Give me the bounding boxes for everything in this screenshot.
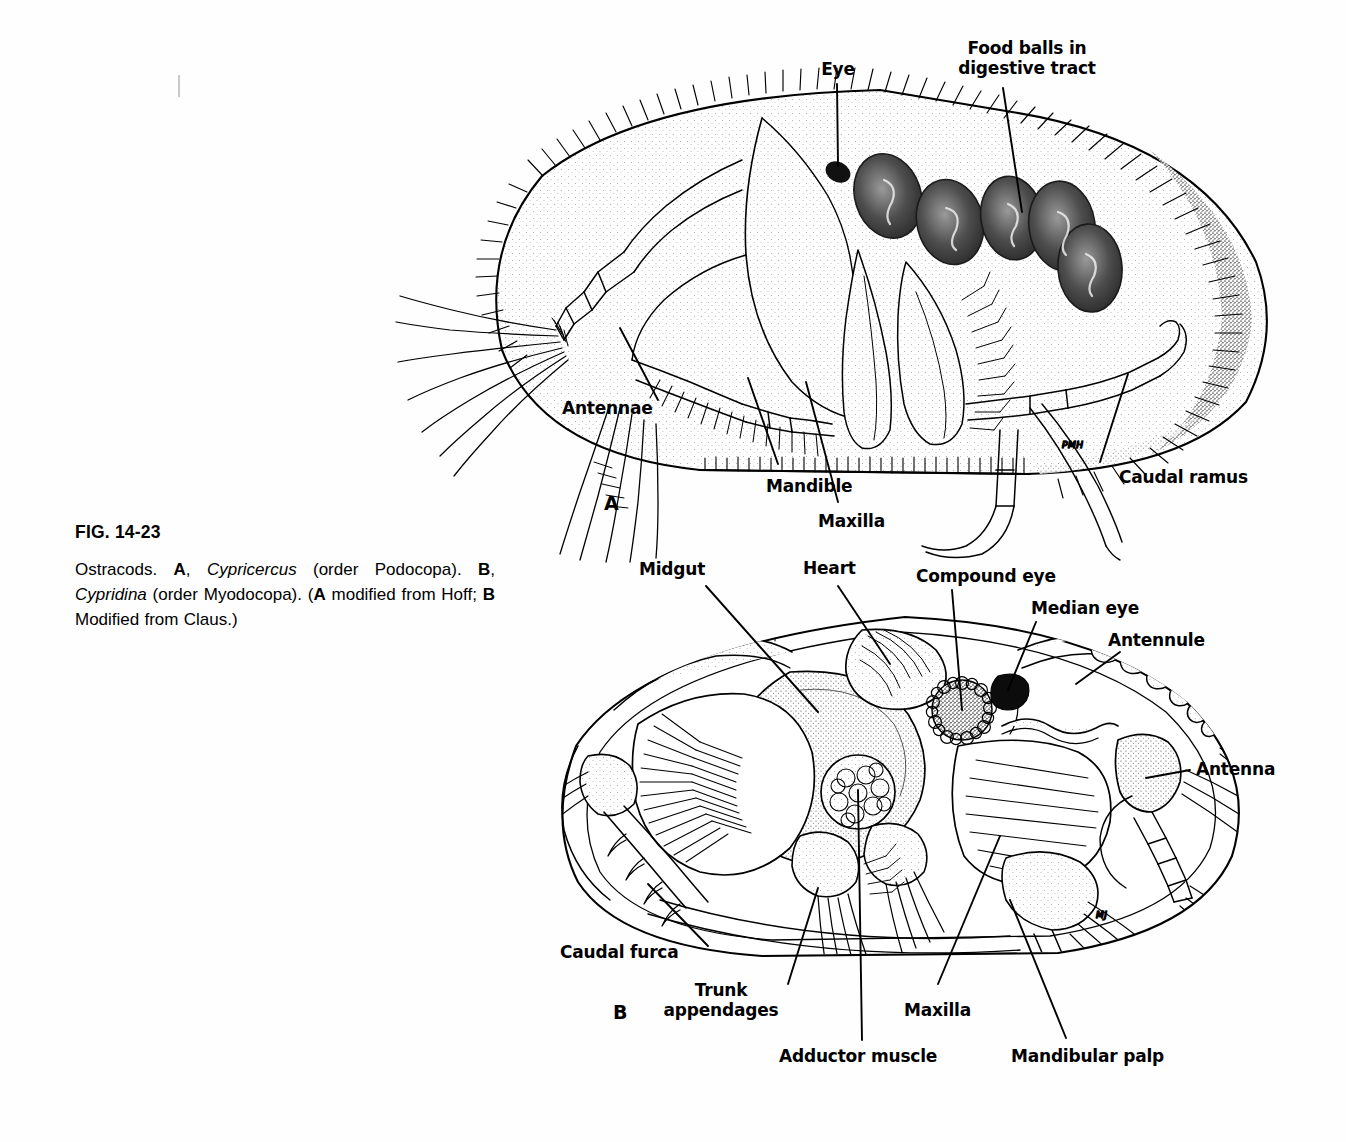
figure-page: FIG. 14-23 Ostracods. A, Cypricercus (or… [0, 0, 1346, 1142]
label-eye-a: Eye [793, 59, 883, 79]
label-maxilla-a: Maxilla [818, 511, 885, 531]
leader-eye [837, 84, 838, 166]
median-eye-b [991, 674, 1029, 710]
panel-b-artwork: MJ [516, 586, 1292, 1040]
label-maxilla-b: Maxilla [904, 1000, 971, 1020]
label-compound-eye-b: Compound eye [916, 566, 1056, 586]
label-adductor-muscle-b: Adductor muscle [779, 1046, 937, 1066]
label-food-balls-a: Food balls indigestive tract [920, 38, 1134, 78]
panel-letter-b: B [613, 1001, 627, 1023]
label-caudal-ramus-a: Caudal ramus [1119, 467, 1248, 487]
label-midgut-b: Midgut [639, 559, 705, 579]
label-mandibular-palp-b: Mandibular palp [1011, 1046, 1164, 1066]
artist-signature-b: MJ [1096, 910, 1107, 920]
label-mandible-a: Mandible [766, 476, 852, 496]
label-trunk-appendages-b: Trunkappendages [640, 980, 802, 1020]
label-antenna-b: Antenna [1196, 759, 1275, 779]
label-median-eye-b: Median eye [1031, 598, 1139, 618]
panel-letter-a: A [604, 492, 619, 514]
label-caudal-furca-b: Caudal furca [560, 942, 678, 962]
artist-signature-a: PMH [1062, 440, 1083, 450]
label-antennae-a: Antennae [562, 398, 653, 418]
label-heart-b: Heart [803, 558, 856, 578]
label-antennule-b: Antennule [1108, 630, 1205, 650]
